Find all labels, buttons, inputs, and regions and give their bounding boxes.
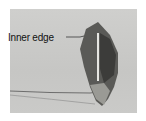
fabric-illustration	[10, 9, 137, 113]
photo	[10, 9, 137, 113]
annotation-label: Inner edge	[8, 32, 54, 43]
